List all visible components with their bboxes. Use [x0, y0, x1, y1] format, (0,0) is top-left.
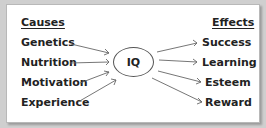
- arrow-icon: [71, 44, 109, 55]
- arrow-icon: [70, 59, 109, 65]
- arrow-icon: [78, 79, 116, 102]
- arrow-icon: [159, 59, 197, 65]
- arrow-icon: [158, 71, 201, 84]
- arrow-icon: [152, 78, 202, 104]
- arrow-icon: [80, 71, 109, 83]
- arrows-layer: [0, 0, 266, 128]
- arrow-icon: [157, 40, 197, 52]
